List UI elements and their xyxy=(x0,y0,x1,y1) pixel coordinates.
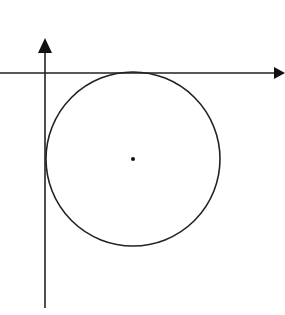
diagram-canvas xyxy=(0,0,285,315)
circle-center-point xyxy=(131,157,135,161)
x-axis-arrow-icon xyxy=(274,67,285,79)
y-axis-arrow-icon xyxy=(38,38,52,53)
